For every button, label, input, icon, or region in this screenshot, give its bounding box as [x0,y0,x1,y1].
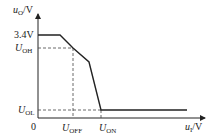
reference-dashes [38,48,101,118]
origin-label: 0 [31,122,36,132]
tick-uoh: UOH [15,43,32,55]
tick-uol: UOL [18,105,35,117]
tick-uon: UON [99,123,116,135]
x-axis-label: uI/V [185,122,202,134]
transfer-curve [38,35,187,110]
y-axis-label: uO/V [13,5,33,17]
tick-3.4v: 3.4V [14,30,34,40]
transfer-curve-plot [0,0,215,140]
tick-uoff: UOFF [62,123,82,135]
